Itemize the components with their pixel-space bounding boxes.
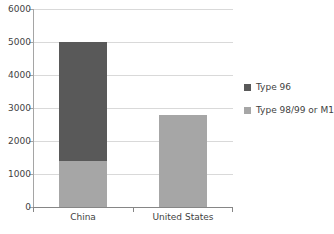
- bar-china[interactable]: [59, 42, 107, 207]
- x-axis-label-united-states: United States: [143, 212, 223, 223]
- y-axis-label-2000: 2000: [3, 137, 31, 146]
- y-axis-label-6000: 6000: [3, 5, 31, 14]
- legend-item-type-98-99-or-m1[interactable]: Type 98/99 or M1: [244, 105, 333, 115]
- legend-item-type-96[interactable]: Type 96: [244, 82, 333, 92]
- y-axis-label-1000: 1000: [3, 170, 31, 179]
- bar-segment-china-type-98-99-or-m1[interactable]: [59, 161, 107, 207]
- bar-segment-united-states-type-98-99-or-m1[interactable]: [159, 115, 207, 207]
- y-axis-label-5000: 5000: [3, 38, 31, 47]
- x-tick-middle: [133, 208, 134, 212]
- x-tick-end: [232, 208, 233, 212]
- bar-segment-china-type-96[interactable]: [59, 42, 107, 161]
- legend-label-type-98-99-or-m1: Type 98/99 or M1: [256, 105, 334, 115]
- y-axis-line: [33, 9, 34, 208]
- y-axis-label-3000: 3000: [3, 104, 31, 113]
- x-axis-label-china: China: [43, 212, 123, 223]
- legend-label-type-96: Type 96: [256, 82, 291, 92]
- x-tick-start: [33, 208, 34, 212]
- y-axis-label-0: 0: [3, 203, 31, 212]
- bar-united-states[interactable]: [159, 115, 207, 207]
- legend-swatch-icon-type-98-99-or-m1: [244, 107, 251, 114]
- legend-swatch-icon-type-96: [244, 84, 251, 91]
- chart-legend: Type 96 Type 98/99 or M1: [244, 82, 333, 128]
- gridline-6000: [33, 9, 233, 10]
- y-axis-label-4000: 4000: [3, 71, 31, 80]
- y-axis-labels: 6000 5000 4000 3000 2000 1000 0: [0, 0, 31, 234]
